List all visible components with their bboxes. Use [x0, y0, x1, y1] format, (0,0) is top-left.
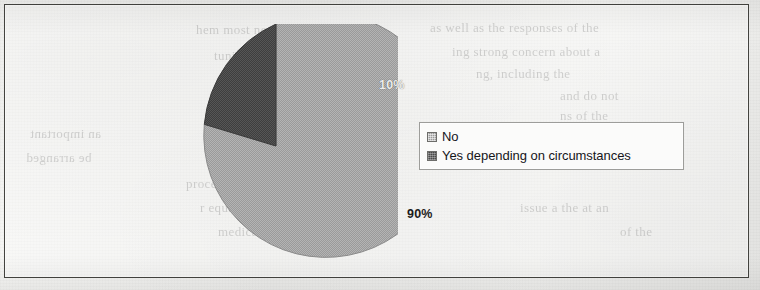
pie-label-major: 90% — [407, 207, 433, 221]
legend-label-yes-depending-on-circumstances: Yes depending on circumstances — [442, 148, 631, 163]
legend-item-no[interactable]: No — [427, 127, 677, 146]
pie-chart-screenshot: hem most notice considerabletunica test … — [0, 0, 760, 290]
pie-chart-graphic: 10% 90% — [154, 24, 398, 268]
legend-swatch-yes-icon — [427, 151, 437, 161]
legend-label-no: No — [442, 129, 459, 144]
pie-label-minor: 10% — [379, 78, 405, 92]
legend-swatch-no-icon — [427, 132, 437, 142]
chart-frame-border: 10% 90% No Yes depending on circumstance… — [4, 4, 749, 278]
legend-box: No Yes depending on circumstances — [419, 122, 684, 170]
legend-item-yes-depending-on-circumstances[interactable]: Yes depending on circumstances — [427, 146, 677, 165]
pie-slice-yes-depending-on-circumstances — [204, 24, 276, 146]
